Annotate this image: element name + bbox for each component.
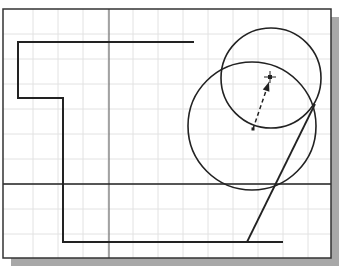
cad-drawing-canvas[interactable] [0,0,345,271]
